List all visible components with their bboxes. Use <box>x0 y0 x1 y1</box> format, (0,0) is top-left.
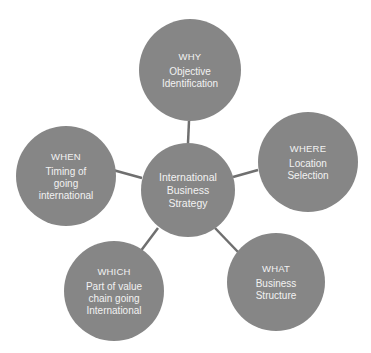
hub-line-2: Business <box>167 184 210 197</box>
connector-why <box>188 121 189 143</box>
hub-node: International Business Strategy <box>141 143 235 237</box>
node-what-question: WHAT <box>262 263 290 274</box>
node-where-question: WHERE <box>290 143 326 154</box>
node-where-description: Location Selection <box>281 158 336 182</box>
node-when: WHEN Timing of going international <box>16 126 116 226</box>
connector-what <box>215 228 238 252</box>
node-when-description: Timing of going international <box>34 166 98 202</box>
node-what-description: Business Structure <box>249 278 304 302</box>
node-when-question: WHEN <box>51 151 81 162</box>
node-what: WHAT Business Structure <box>227 233 325 331</box>
node-why: WHY Objective Identification <box>139 19 241 121</box>
node-why-question: WHY <box>179 51 202 62</box>
connector-when <box>113 170 142 178</box>
node-why-description: Objective Identification <box>155 66 225 90</box>
hub-line-1: International <box>159 171 217 184</box>
node-which: WHICH Part of value chain going Internat… <box>64 241 164 341</box>
connector-which <box>140 228 158 252</box>
node-which-description: Part of value chain going International <box>81 281 147 317</box>
hub-line-3: Strategy <box>168 197 207 210</box>
node-which-question: WHICH <box>97 266 130 277</box>
connector-where <box>233 170 258 177</box>
node-where: WHERE Location Selection <box>258 112 358 212</box>
